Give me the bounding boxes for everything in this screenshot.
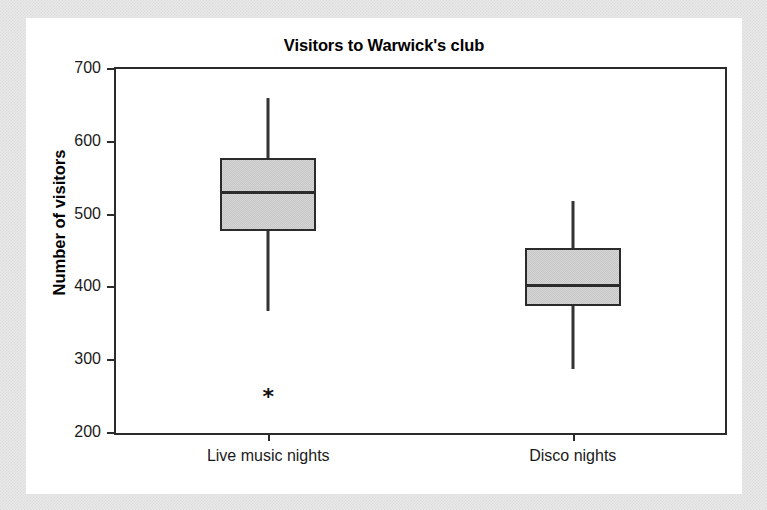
median-line (525, 284, 621, 287)
page-title: Visitors to Warwick's club (26, 36, 742, 55)
y-axis-tick-label: 600 (74, 132, 101, 150)
y-axis-tick-label: 400 (74, 277, 101, 295)
y-axis-tick-label: 300 (74, 350, 101, 368)
y-axis-tick-label: 200 (74, 423, 101, 441)
x-axis-tick (573, 433, 575, 441)
y-axis-tick-label: 700 (74, 59, 101, 77)
box-iqr (525, 248, 621, 306)
y-axis-tick: 400 (107, 286, 116, 288)
y-axis-tick: 700 (107, 68, 116, 70)
x-axis-tick-label: Live music nights (207, 447, 330, 465)
plot-frame: 700600500400300200Live music nightsDisco… (114, 67, 727, 435)
y-axis-tick: 300 (107, 359, 116, 361)
y-axis-tick: 500 (107, 214, 116, 216)
figure-background: Visitors to Warwick's club Number of vis… (0, 0, 767, 510)
boxplot-2 (116, 69, 725, 433)
figure-card: Visitors to Warwick's club Number of vis… (26, 18, 742, 494)
y-axis-tick: 600 (107, 141, 116, 143)
plot-area: 700600500400300200Live music nightsDisco… (116, 69, 725, 433)
whisker-upper (571, 201, 574, 248)
whisker-lower (571, 306, 574, 369)
y-axis-label: Number of visitors (50, 128, 69, 318)
x-axis-tick-label: Disco nights (529, 447, 616, 465)
x-axis-tick (268, 433, 270, 441)
y-axis-tick-label: 500 (74, 205, 101, 223)
y-axis-tick: 200 (107, 432, 116, 434)
